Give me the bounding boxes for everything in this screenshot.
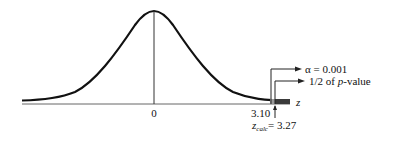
zcalc-value: = 3.27: [268, 119, 297, 131]
half-pvalue-prefix: 1/2 of: [309, 75, 338, 87]
tick-label-zero: 0: [151, 107, 157, 119]
zcalc-arrow-icon: [273, 105, 277, 110]
half-pvalue-label: 1/2 of p-value: [309, 75, 371, 87]
alpha-arrow-icon: [295, 67, 302, 72]
pvalue-arrow-icon: [298, 79, 305, 84]
half-pvalue-suffix: -value: [343, 75, 371, 87]
normal-curve: [22, 11, 290, 101]
zcalc-label: zcalc= 3.27: [251, 119, 297, 133]
tick-label-critical: 3.10: [251, 107, 271, 119]
zcalc-subscript: calc: [256, 125, 269, 133]
alpha-label: α = 0.001: [305, 63, 347, 75]
normal-distribution-diagram: 0 3.10 z α = 0.001 1/2 of p-value zcalc=…: [0, 0, 399, 141]
axis-variable-label: z: [295, 96, 301, 108]
